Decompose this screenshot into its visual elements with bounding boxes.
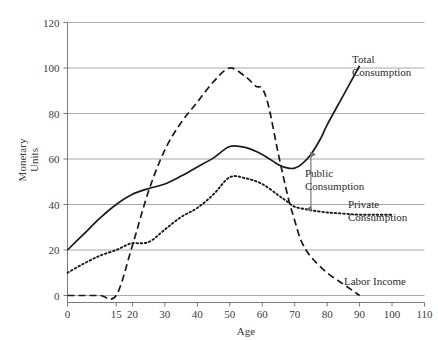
y-tick-label-0: 0 [54,290,60,302]
x-tick-label-20: 20 [127,308,139,320]
x-tick-label-70: 70 [289,308,301,320]
y-tick-label-80: 80 [49,108,61,120]
y-tick-label-120: 120 [43,17,60,29]
y-tick-label-20: 20 [49,244,61,256]
chart-container: 020406080100120 015203040506070809010011… [0,0,438,340]
x-tick-label-60: 60 [257,308,269,320]
economic-lifecycle-line-chart: 020406080100120 015203040506070809010011… [0,0,438,340]
chart-background [0,0,438,340]
x-tick-label-100: 100 [384,308,401,320]
y-tick-label-60: 60 [49,153,61,165]
x-tick-label-50: 50 [224,308,236,320]
x-tick-label-80: 80 [322,308,334,320]
x-tick-label-110: 110 [416,308,433,320]
series-label-labor-income: Labor Income [344,275,406,287]
x-tick-label-15: 15 [111,308,123,320]
x-tick-label-30: 30 [159,308,171,320]
x-tick-label-90: 90 [354,308,366,320]
x-tick-label-0: 0 [65,308,71,320]
y-tick-label-40: 40 [49,199,61,211]
x-tick-label-40: 40 [192,308,204,320]
y-tick-label-100: 100 [43,62,60,74]
x-axis-title: Age [237,325,255,337]
